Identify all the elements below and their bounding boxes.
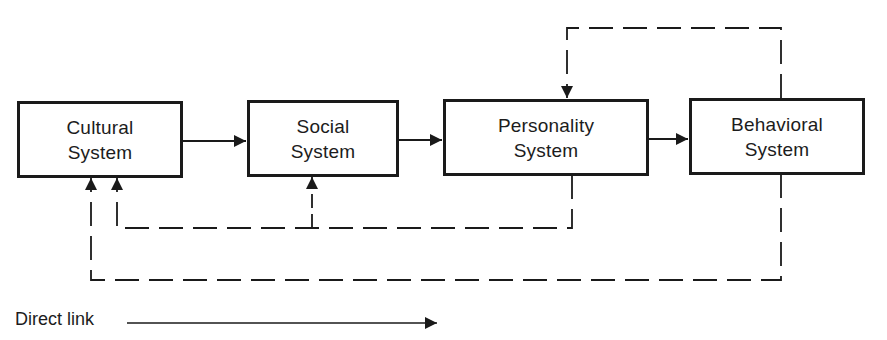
node-label-line1: Social — [297, 114, 350, 139]
node-label-line2: System — [745, 137, 810, 162]
node-label-line1: Behavioral — [731, 112, 823, 137]
edge-behavioral-to-personality — [567, 28, 781, 98]
node-label-line2: System — [68, 140, 133, 165]
node-label-line1: Cultural — [66, 115, 133, 140]
node-label-line2: System — [514, 138, 579, 163]
node-label-line1: Personality — [498, 113, 594, 138]
node-label-line2: System — [291, 139, 356, 164]
node-cultural-system: Cultural System — [17, 101, 183, 178]
edge-personality-to-cultural — [117, 175, 572, 228]
edge-behavioral-to-cultural — [91, 174, 781, 280]
legend-direct-link-label: Direct link — [15, 309, 94, 330]
node-personality-system: Personality System — [443, 99, 649, 176]
node-social-system: Social System — [247, 100, 399, 177]
node-behavioral-system: Behavioral System — [689, 98, 865, 175]
